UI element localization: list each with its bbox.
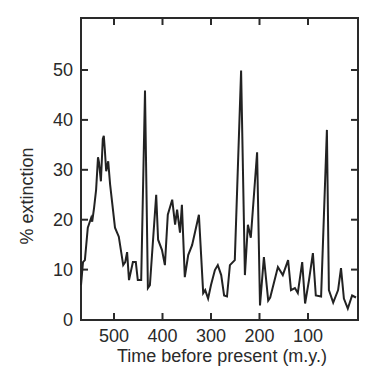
y-tick-label: 30: [53, 160, 73, 180]
plot-frame: [81, 18, 358, 320]
x-tick-labels: 500400300200100: [99, 326, 323, 346]
x-tick-label: 500: [99, 326, 129, 346]
y-tick-label: 20: [53, 210, 73, 230]
y-tick-label: 40: [53, 110, 73, 130]
extinction-series-line: [81, 71, 356, 309]
y-tick-label: 0: [63, 310, 73, 330]
x-tick-label: 200: [244, 326, 274, 346]
axis-ticks: [81, 18, 358, 320]
x-axis-label: Time before present (m.y.): [117, 346, 327, 366]
x-tick-label: 300: [196, 326, 226, 346]
y-tick-label: 10: [53, 260, 73, 280]
x-tick-label: 400: [147, 326, 177, 346]
y-tick-label: 50: [53, 60, 73, 80]
x-tick-label: 100: [293, 326, 323, 346]
y-tick-labels: 01020304050: [53, 60, 73, 330]
y-axis-label: % extinction: [17, 147, 37, 244]
extinction-chart: 01020304050 500400300200100 Time before …: [0, 0, 371, 380]
